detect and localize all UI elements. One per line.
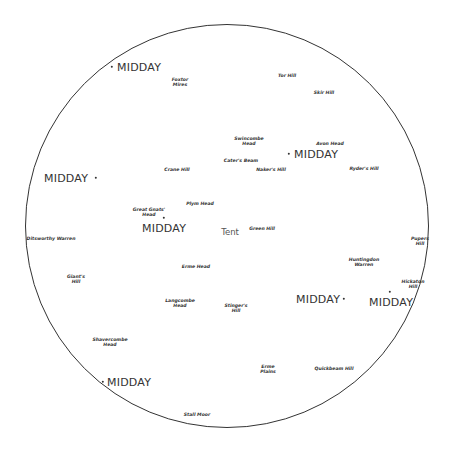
midday-marker-7: MIDDAY: [107, 376, 151, 389]
place-ditsworthy-warren: Ditsworthy Warren: [27, 236, 76, 241]
place-pupers-hill: Pupers Hill: [411, 236, 429, 247]
midday-marker-6: MIDDAY: [369, 296, 413, 309]
place-crane-hill: Crane Hill: [164, 167, 189, 172]
midday-marker-3: MIDDAY: [294, 148, 338, 161]
place-avon-head: Avon Head: [316, 141, 344, 146]
midday-marker-1: MIDDAY: [117, 61, 161, 74]
place-erme-plains: Erme Plains: [260, 364, 276, 375]
midday-marker-2: MIDDAY: [44, 172, 88, 185]
place-stingers-hill: Stinger's Hill: [224, 303, 247, 314]
place-great-gnats-head: Great Gnats' Head: [133, 207, 166, 218]
place-caters-beam: Cater's Beam: [224, 158, 258, 163]
place-plym-head: Plym Head: [186, 201, 214, 206]
place-tor-hill: Tor Hill: [278, 73, 296, 78]
place-huntingdon-warren: Huntingdon Warren: [349, 257, 379, 268]
midday-marker-4: MIDDAY: [142, 222, 186, 235]
place-quickbeam-hill: Quickbeam Hill: [315, 366, 354, 371]
map-canvas: Foxtor Mires Tor Hill Skir Hill Swincomb…: [0, 0, 453, 468]
place-green-hill: Green Hill: [249, 226, 275, 231]
place-erme-head: Erme Head: [182, 264, 210, 269]
place-ryders-hill: Ryder's Hill: [349, 166, 378, 171]
place-skir-hill: Skir Hill: [314, 90, 334, 95]
place-hickaton-hill: Hickaton Hill: [402, 279, 425, 290]
boundary-circle: [25, 24, 429, 428]
midday-marker-5: MIDDAY: [296, 293, 340, 306]
place-nakers-hill: Naker's Hill: [256, 167, 286, 172]
tent-label: Tent: [221, 227, 239, 237]
place-swincombe-head: Swincombe Head: [234, 136, 263, 147]
place-giants-hill: Giant's Hill: [67, 274, 85, 285]
place-fox-tor-mires: Foxtor Mires: [172, 77, 189, 88]
place-stall-moor: Stall Moor: [184, 412, 211, 417]
place-shavercombe-head: Shavercombe Head: [92, 337, 127, 348]
place-langcombe-head: Langcombe Head: [165, 298, 195, 309]
